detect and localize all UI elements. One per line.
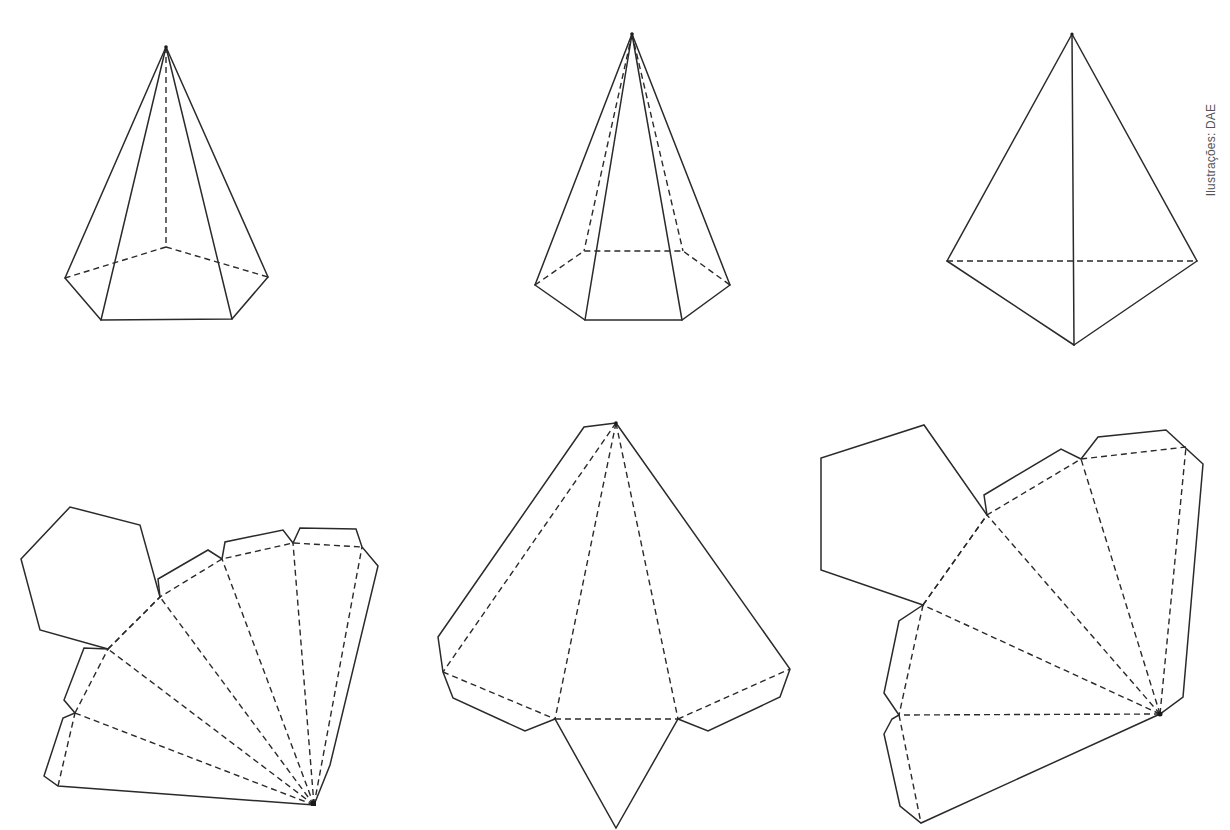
hexagonal-pyramid <box>535 32 730 320</box>
pyramids-and-nets-diagram <box>0 0 1230 830</box>
triangular-pyramid <box>947 32 1197 345</box>
triangular-pyramid-net <box>438 421 790 828</box>
illustration-credit: Ilustrações: DAE <box>1196 80 1226 220</box>
hexagonal-pyramid-net <box>21 507 378 806</box>
illustration-credit-text: Ilustrações: DAE <box>1204 104 1218 197</box>
pentagonal-pyramid-net <box>821 425 1203 823</box>
pentagonal-pyramid <box>65 45 268 320</box>
